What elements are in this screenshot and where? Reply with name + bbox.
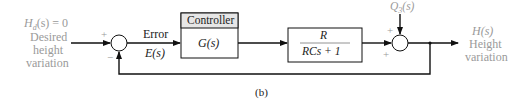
plant-numerator: R bbox=[320, 29, 327, 41]
controller-transfer-function: G(s) bbox=[198, 36, 219, 51]
controller-title: Controller bbox=[187, 14, 234, 26]
error-symbol: E(s) bbox=[145, 46, 165, 61]
summing-junction-1 bbox=[111, 35, 127, 51]
output-desc-line2: variation bbox=[465, 50, 508, 65]
figure-caption: (b) bbox=[255, 86, 268, 98]
sum2-plus-left: + bbox=[383, 48, 389, 60]
sum1-plus-sign: + bbox=[101, 28, 107, 40]
summing-junction-2 bbox=[392, 35, 408, 51]
plant-denominator: RCs + 1 bbox=[302, 45, 340, 57]
error-label: Error bbox=[143, 27, 168, 42]
input-desc-line3: variation bbox=[26, 56, 69, 71]
sum2-plus-top: + bbox=[387, 24, 393, 36]
sum1-minus-sign: − bbox=[107, 51, 113, 63]
disturbance-label: Q3(s) bbox=[390, 0, 414, 15]
